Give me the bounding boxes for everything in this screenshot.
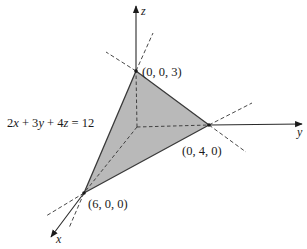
plane-intercept-diagram: z y x (0, 0, 3) (0, 4, 0) (6, 0, 0) 2x +… bbox=[0, 0, 307, 249]
x-axis-label: x bbox=[55, 232, 62, 246]
plane-triangle bbox=[84, 71, 209, 193]
trace-yz-ext-2 bbox=[209, 103, 252, 125]
vertex-dot-x bbox=[82, 191, 86, 195]
z-axis-label: z bbox=[140, 4, 146, 18]
x-axis bbox=[51, 193, 84, 237]
plane-equation: 2x + 3y + 4z = 12 bbox=[7, 116, 94, 130]
eq-rhs: = 12 bbox=[68, 116, 94, 130]
y-axis bbox=[209, 124, 302, 125]
vertex-dot-z bbox=[134, 69, 138, 73]
vertex-label-y: (0, 4, 0) bbox=[182, 144, 222, 158]
y-axis-label: y bbox=[296, 125, 303, 139]
trace-xy-ext-2 bbox=[46, 193, 84, 216]
eq-coef-y: + 3 bbox=[19, 116, 39, 130]
eq-coef-z: + 4 bbox=[44, 116, 64, 130]
vertex-dot-y bbox=[207, 123, 211, 127]
vertex-label-x: (6, 0, 0) bbox=[88, 197, 128, 211]
trace-xz-ext bbox=[106, 52, 136, 71]
vertex-label-z: (0, 0, 3) bbox=[142, 65, 182, 79]
